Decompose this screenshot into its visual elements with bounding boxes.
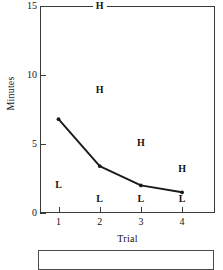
data-annotation-l: L xyxy=(52,179,66,190)
data-point-marker xyxy=(57,117,61,121)
series-line xyxy=(59,119,183,192)
data-annotation-l: L xyxy=(175,193,189,204)
data-annotation-l: L xyxy=(134,193,148,204)
data-point-marker xyxy=(139,184,143,188)
data-annotation-l: L xyxy=(93,193,107,204)
data-annotation-h: H xyxy=(93,84,107,95)
data-annotation-h: H xyxy=(175,163,189,174)
data-annotation-h: H xyxy=(93,0,107,11)
caption-box-frame xyxy=(38,250,214,270)
data-annotation-h: H xyxy=(134,137,148,148)
data-point-marker xyxy=(98,164,102,168)
